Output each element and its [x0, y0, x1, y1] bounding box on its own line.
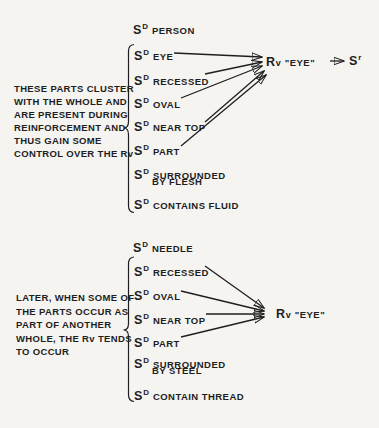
sd-base: S	[134, 265, 143, 279]
sd-superscript: r	[358, 53, 361, 62]
sd-label: NEAR TOP	[153, 122, 206, 133]
note-line: THESE PARTS CLUSTER	[14, 82, 134, 95]
sd-base: S	[134, 74, 143, 88]
note-line: CONTROL OVER THE Rv	[14, 147, 134, 160]
sd-superscript: D	[143, 167, 149, 176]
arrow-eye-to-rv	[174, 53, 262, 57]
response-rv-eye-bottom: Rv"EYE"	[276, 307, 325, 321]
response-label: "EYE"	[295, 309, 325, 320]
header-sd-needle: SDNEEDLE	[133, 239, 193, 254]
sd-base: S	[134, 289, 143, 303]
note-line: REINFORCEMENT AND	[14, 121, 134, 134]
sd-base: S	[134, 144, 143, 158]
sd-superscript: D	[143, 335, 149, 344]
sd-label: OVAL	[153, 291, 180, 302]
sd-item-contains-fluid: SDCONTAINS FLUID	[134, 196, 239, 211]
sd-item-part-top: SDPART	[134, 142, 180, 157]
note-line: WITH THE WHOLE AND	[14, 95, 134, 108]
sd-base: S	[134, 389, 143, 403]
note-top: THESE PARTS CLUSTER WITH THE WHOLE AND A…	[14, 82, 134, 160]
sd-superscript: D	[143, 356, 149, 365]
sd-superscript: D	[143, 288, 149, 297]
sd-base: S	[133, 241, 142, 255]
sd-base: S	[133, 23, 142, 37]
note-bottom: LATER, WHEN SOME OF THE PARTS OCCUR AS P…	[16, 291, 134, 359]
sd-item-recessed-top: SDRECESSED	[134, 72, 209, 87]
sd-base: S	[134, 120, 143, 134]
sd-superscript: D	[143, 143, 149, 152]
sd-superscript: D	[142, 22, 148, 31]
sd-item-eye: SDEYE	[134, 47, 173, 62]
sd-superscript: D	[143, 388, 149, 397]
arrow-recessed-to-rv-top	[205, 62, 262, 74]
sd-label: RECESSED	[153, 76, 209, 87]
sd-base: S	[349, 54, 358, 68]
response-subscript: v	[276, 58, 281, 68]
arrow-oval-to-rv-bottom	[181, 291, 264, 311]
sd-label: OVAL	[153, 99, 180, 110]
sd-base: S	[134, 49, 143, 63]
note-line: TO OCCUR	[16, 345, 134, 359]
sd-label: RECESSED	[153, 267, 209, 278]
sd-base: S	[134, 357, 143, 371]
response-subscript: v	[286, 310, 291, 320]
response-base: R	[266, 55, 275, 69]
sd-label-line2-steel: BY STEEL	[152, 366, 202, 376]
sd-label: PART	[153, 338, 180, 349]
sd-label: CONTAIN THREAD	[153, 391, 244, 402]
note-line: LATER, WHEN SOME OF	[16, 291, 134, 305]
sd-superscript: D	[143, 96, 149, 105]
sd-base: S	[134, 168, 143, 182]
sd-base: S	[134, 336, 143, 350]
sd-item-recessed-bottom: SDRECESSED	[134, 263, 209, 278]
sd-label: CONTAINS FLUID	[153, 200, 239, 211]
sd-item-part-bottom: SDPART	[134, 334, 180, 349]
arrow-recessed-to-rv-bottom	[205, 266, 264, 308]
sd-item-oval-bottom: SDOVAL	[134, 287, 180, 302]
response-label: "EYE"	[285, 57, 315, 68]
discrimination-diagram: SDPERSON THESE PARTS CLUSTER WITH THE WH…	[0, 0, 379, 428]
sd-superscript: D	[143, 264, 149, 273]
sd-item-neartop-bottom: SDNEAR TOP	[134, 311, 205, 326]
sd-label-line2-flesh: BY FLESH	[152, 177, 202, 187]
sd-base: S	[134, 198, 143, 212]
sd-item-oval-top: SDOVAL	[134, 95, 180, 110]
header-label: PERSON	[152, 25, 195, 36]
note-line: THUS GAIN SOME	[14, 134, 134, 147]
arrow-neartop-to-rv-top	[205, 71, 264, 122]
sd-label: PART	[153, 146, 180, 157]
note-line: WHOLE, THE Rv TENDS	[16, 332, 134, 346]
sd-base: S	[134, 313, 143, 327]
sd-label: NEAR TOP	[153, 315, 206, 326]
response-rv-eye-top: Rv"EYE"	[266, 55, 315, 69]
note-line: PART OF ANOTHER	[16, 318, 134, 332]
sd-item-neartop-top: SDNEAR TOP	[134, 118, 205, 133]
note-line: THE PARTS OCCUR AS	[16, 305, 134, 319]
sd-superscript: D	[143, 197, 149, 206]
sd-item-contain-thread: SDCONTAIN THREAD	[134, 387, 244, 402]
response-base: R	[276, 307, 285, 321]
sd-superscript: D	[143, 73, 149, 82]
sd-base: S	[134, 97, 143, 111]
sd-superscript: D	[142, 240, 148, 249]
header-label: NEEDLE	[152, 243, 193, 254]
note-line: ARE PRESENT DURING	[14, 108, 134, 121]
header-sd-person: SDPERSON	[133, 21, 195, 36]
sd-label: EYE	[153, 51, 173, 62]
sd-superscript: D	[143, 48, 149, 57]
sd-superscript: D	[143, 312, 149, 321]
reinforcer-sr: Sr	[349, 52, 361, 67]
sd-superscript: D	[143, 119, 149, 128]
